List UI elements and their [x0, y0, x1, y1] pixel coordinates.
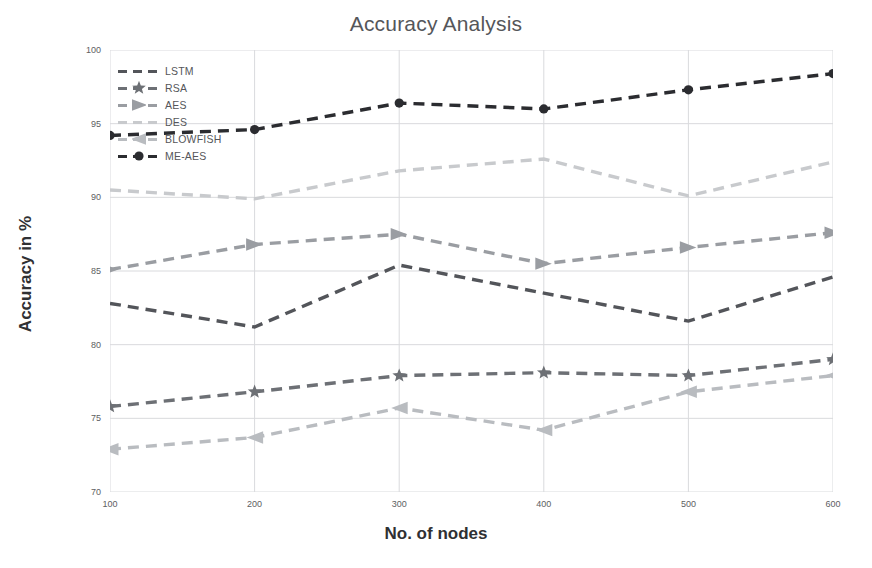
y-tick-label: 80 [91, 340, 101, 350]
legend-swatch [118, 149, 158, 163]
data-point-marker [132, 81, 146, 94]
series-rsa [110, 352, 833, 412]
accuracy-analysis-chart: Accuracy Analysis Accuracy in % No. of n… [0, 0, 872, 568]
legend-item-des[interactable]: DES [118, 113, 308, 130]
legend-label: BLOWFISH [158, 133, 221, 145]
legend-swatch [118, 64, 158, 78]
data-point-marker [132, 132, 146, 144]
legend-label: DES [158, 116, 187, 128]
chart-legend: LSTMRSAAESDESBLOWFISHME-AES [118, 62, 308, 164]
y-axis-label: Accuracy in % [16, 164, 36, 384]
data-point-marker [828, 69, 833, 78]
legend-swatch [118, 98, 158, 112]
legend-item-aes[interactable]: AES [118, 96, 308, 113]
x-tick-label: 400 [536, 499, 551, 509]
legend-marker-triangle-left-icon [132, 132, 146, 146]
y-tick-label: 100 [86, 45, 101, 55]
x-tick-label: 600 [825, 499, 840, 509]
legend-label: AES [158, 99, 187, 111]
legend-marker-triangle-right-icon [132, 98, 146, 112]
legend-item-me-aes[interactable]: ME-AES [118, 147, 308, 164]
series-line [110, 376, 833, 450]
legend-item-lstm[interactable]: LSTM [118, 62, 308, 79]
x-tick-label: 200 [247, 499, 262, 509]
legend-label: ME-AES [158, 150, 206, 162]
y-tick-label: 90 [91, 192, 101, 202]
data-point-marker [110, 443, 119, 455]
series-line [110, 359, 833, 406]
x-tick-label: 300 [392, 499, 407, 509]
data-point-marker [826, 352, 833, 365]
legend-swatch [118, 115, 158, 129]
legend-item-blowfish[interactable]: BLOWFISH [118, 130, 308, 147]
legend-marker-circle-icon [132, 149, 146, 163]
y-tick-label: 95 [91, 119, 101, 129]
data-point-marker [825, 369, 833, 381]
legend-swatch [118, 132, 158, 146]
legend-swatch [118, 81, 158, 95]
data-point-marker [395, 98, 404, 107]
y-tick-label: 75 [91, 413, 101, 423]
data-point-marker [110, 263, 118, 275]
legend-label: RSA [158, 82, 187, 94]
series-aes [110, 226, 833, 275]
y-tick-label: 85 [91, 266, 101, 276]
series-line [110, 265, 833, 327]
data-point-marker [684, 85, 693, 94]
chart-title: Accuracy Analysis [0, 12, 872, 36]
data-point-marker [110, 131, 115, 140]
x-tick-label: 500 [681, 499, 696, 509]
data-point-marker [825, 226, 834, 238]
legend-marker-star-icon [132, 81, 146, 95]
x-tick-label: 100 [102, 499, 117, 509]
series-des [110, 159, 833, 199]
legend-label: LSTM [158, 65, 194, 77]
data-point-marker [132, 98, 146, 110]
data-point-marker [539, 104, 548, 113]
series-line [110, 159, 833, 199]
series-line [110, 233, 833, 270]
series-blowfish [110, 369, 833, 455]
legend-item-rsa[interactable]: RSA [118, 79, 308, 96]
data-point-marker [134, 151, 143, 160]
series-lstm [110, 265, 833, 327]
y-tick-label: 70 [91, 487, 101, 497]
x-axis-label: No. of nodes [0, 524, 872, 544]
